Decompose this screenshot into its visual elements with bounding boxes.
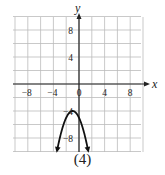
x-tick-label: −4 — [47, 88, 57, 98]
x-tick-label: 8 — [128, 88, 133, 98]
x-axis-arrow-icon — [144, 82, 150, 87]
x-axis-label: x — [151, 77, 158, 91]
y-tick-label: 4 — [68, 53, 73, 63]
y-axis-label: y — [74, 1, 81, 15]
x-tick-label: 4 — [102, 88, 107, 98]
coordinate-plane: xy−8−404884−4−8 — [0, 0, 165, 175]
x-tick-label: 0 — [77, 88, 82, 98]
y-tick-label: 8 — [68, 26, 73, 36]
y-tick-label: −8 — [63, 134, 73, 144]
x-tick-label: −8 — [22, 88, 32, 98]
figure-caption: (4) — [0, 151, 165, 168]
